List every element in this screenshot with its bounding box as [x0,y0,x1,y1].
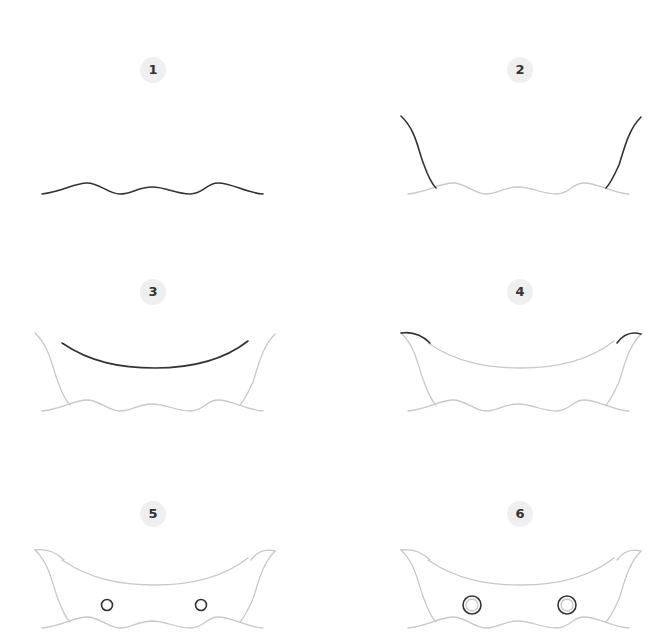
hull-top-guide [428,558,614,585]
hull-right-side [606,117,641,188]
water-line-guide [408,400,629,411]
hull-right-guide [606,334,641,405]
hull-left-side [401,116,436,188]
hull-right-guide [240,551,275,622]
step-3-drawing [35,333,275,411]
hull-top-edge [62,341,248,368]
water-line-guide [408,183,629,194]
hull-left-guide [35,550,70,622]
hull-top-guide [428,341,614,368]
water-line-guide [408,617,629,628]
step-2-drawing [401,116,641,194]
water-line-guide [42,617,263,628]
step-4-drawing [401,333,641,411]
water-line [42,183,263,194]
step-6-drawing [401,550,641,628]
hull-left-guide [401,550,436,622]
step-5-drawing [35,550,275,628]
hull-right-guide [606,551,641,622]
hull-left-guide [401,333,436,405]
hull-left-guide [35,333,70,405]
porthole-left-inner [466,599,478,611]
drawing-steps [0,0,666,634]
porthole-right [196,600,207,611]
porthole-left [102,600,113,611]
hull-right-guide [240,334,275,405]
porthole-right-inner [561,599,573,611]
water-line-guide [42,400,263,411]
step-1-drawing [42,183,263,194]
hull-top-guide [62,558,248,585]
